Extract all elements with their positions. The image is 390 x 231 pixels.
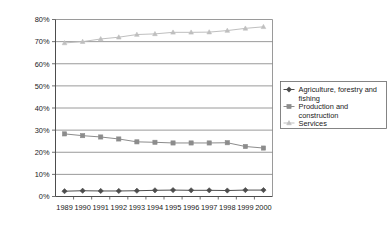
x-axis-tick-label: 1992 <box>111 203 127 212</box>
y-axis-tick-label: 50% <box>35 82 50 91</box>
series-line <box>65 27 264 43</box>
x-axis-tick-label: 1989 <box>56 203 72 212</box>
series-1 <box>62 187 266 193</box>
data-point-marker-diamond <box>170 187 175 192</box>
y-axis-labels: 0%10%20%30%40%50%60%70%80% <box>35 15 50 201</box>
x-axis-labels: 1989199019911992199319941995199619971998… <box>56 203 271 212</box>
data-point-marker-diamond <box>134 188 139 193</box>
data-series <box>62 24 266 193</box>
data-point-marker-diamond <box>98 188 103 193</box>
y-axis-tick-label: 70% <box>35 37 50 46</box>
data-point-marker-square <box>243 144 247 148</box>
y-axis-tick-label: 40% <box>35 104 50 113</box>
data-point-marker-diamond <box>243 187 248 192</box>
data-point-marker-square <box>287 104 291 108</box>
data-point-marker-diamond <box>225 188 230 193</box>
x-axis-tick-label: 1990 <box>74 203 90 212</box>
data-point-marker-square <box>207 141 211 145</box>
data-point-marker-square <box>99 135 103 139</box>
x-axis-tick-label: 1997 <box>201 203 217 212</box>
data-point-marker-diamond <box>189 188 194 193</box>
chart-container: 0%10%20%30%40%50%60%70%80% 1989199019911… <box>0 0 390 231</box>
data-point-marker-square <box>135 140 139 144</box>
data-point-marker-square <box>189 141 193 145</box>
x-axis-tick-label: 1998 <box>219 203 235 212</box>
x-axis-tick-label: 2000 <box>255 203 271 212</box>
legend-label: Services <box>299 119 328 128</box>
chart-legend: Agriculture, forestry andfishingProducti… <box>281 82 387 129</box>
series-line <box>65 134 264 148</box>
gridlines <box>56 20 273 175</box>
data-point-marker-diamond <box>207 188 212 193</box>
data-point-marker-square <box>153 140 157 144</box>
data-point-marker-square <box>117 137 121 141</box>
x-axis-tick-label: 1991 <box>92 203 108 212</box>
series-2 <box>62 132 265 150</box>
data-point-marker-diamond <box>152 188 157 193</box>
legend-label: Agriculture, forestry and <box>299 85 377 94</box>
data-point-marker-diamond <box>62 189 67 194</box>
x-axis-tick-label: 1999 <box>237 203 253 212</box>
line-chart: 0%10%20%30%40%50%60%70%80% 1989199019911… <box>0 0 390 231</box>
series-line <box>65 190 264 191</box>
data-point-marker-diamond <box>116 188 121 193</box>
y-axis-tick-label: 30% <box>35 126 50 135</box>
y-axis-tick-label: 20% <box>35 148 50 157</box>
data-point-marker-diamond <box>80 188 85 193</box>
y-axis-tick-label: 60% <box>35 60 50 69</box>
data-point-marker-diamond <box>261 187 266 192</box>
data-point-marker-square <box>261 146 265 150</box>
data-point-marker-square <box>62 132 66 136</box>
y-axis-tick-label: 0% <box>39 192 50 201</box>
x-axis-tick-label: 1996 <box>183 203 199 212</box>
data-point-marker-square <box>171 141 175 145</box>
x-axis-tick-label: 1994 <box>147 203 163 212</box>
legend-label: Production and <box>299 102 349 111</box>
data-point-marker-square <box>81 134 85 138</box>
x-axis-tick-label: 1993 <box>129 203 145 212</box>
data-point-marker-square <box>225 141 229 145</box>
y-axis-tick-label: 10% <box>35 170 50 179</box>
x-axis-tick-label: 1995 <box>165 203 181 212</box>
y-axis-tick-label: 80% <box>35 15 50 24</box>
y-axis-tick-marks <box>52 20 56 197</box>
